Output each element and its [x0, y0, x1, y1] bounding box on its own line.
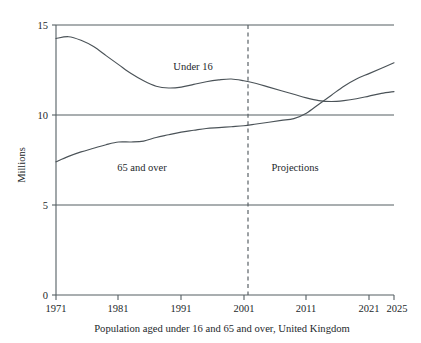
series-label-65-and-over: 65 and over: [117, 162, 167, 173]
line-chart-canvas: 15 10 5 0 1971 1981 1991 2001 2011 2021 …: [0, 0, 421, 343]
y-tick-label-15: 15: [38, 20, 49, 31]
x-tick-label-1981: 1981: [108, 303, 129, 314]
y-tick-marks: [52, 25, 56, 295]
x-tick-label-2011: 2011: [296, 303, 317, 314]
series-path-under-16: [56, 37, 394, 102]
gridlines: [56, 25, 394, 295]
x-tick-label-1991: 1991: [171, 303, 192, 314]
y-tick-label-0: 0: [43, 290, 48, 301]
x-tick-label-2021: 2021: [359, 303, 380, 314]
y-axis-title: Millions: [16, 147, 27, 183]
x-tick-label-2025: 2025: [387, 303, 408, 314]
y-tick-label-5: 5: [43, 200, 48, 211]
annotation-projections: Projections: [271, 162, 318, 173]
x-tick-label-1971: 1971: [46, 303, 67, 314]
chart-figure: 15 10 5 0 1971 1981 1991 2001 2011 2021 …: [0, 0, 421, 343]
chart-caption: Population aged under 16 and 65 and over…: [94, 323, 350, 334]
series-label-under-16: Under 16: [173, 61, 212, 72]
series-path-65-and-over: [56, 63, 394, 162]
y-tick-label-10: 10: [38, 110, 49, 121]
x-tick-marks: [56, 295, 394, 300]
x-tick-label-2001: 2001: [234, 303, 255, 314]
